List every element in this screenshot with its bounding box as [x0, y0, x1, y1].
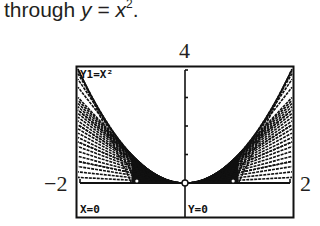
trace-y-readout: Y=0 — [188, 203, 208, 216]
trace-x-readout: X=0 — [80, 203, 100, 216]
marker-dot — [232, 179, 235, 182]
trace-cursor — [182, 180, 188, 186]
marker-dot — [135, 179, 138, 182]
calculator-graph: Y1=X² X=0 Y=0 — [0, 0, 320, 226]
function-label: Y1=X² — [80, 68, 113, 81]
